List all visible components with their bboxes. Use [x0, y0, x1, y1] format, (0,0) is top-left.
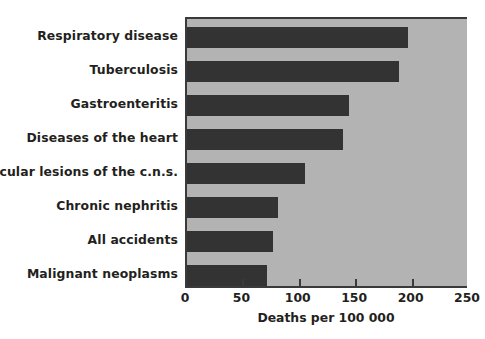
x-axis-tick-mark — [299, 279, 301, 286]
bar-chart: Respiratory diseaseTuberculosisGastroent… — [0, 0, 485, 339]
bar — [187, 231, 273, 252]
bar — [187, 197, 278, 218]
x-axis-tick-label: 200 — [398, 290, 424, 305]
category-axis-labels: Respiratory diseaseTuberculosisGastroent… — [0, 17, 181, 288]
category-label: Gastroenteritis — [71, 93, 178, 114]
bar — [187, 27, 408, 48]
bar — [187, 61, 399, 82]
x-axis-tick-mark — [355, 279, 357, 286]
category-label: Diseases of the heart — [26, 127, 178, 148]
bar — [187, 163, 305, 184]
x-axis-tick-label: 250 — [454, 290, 480, 305]
x-axis-title: Deaths per 100 000 — [185, 310, 467, 325]
category-label: Vascular lesions of the c.n.s. — [0, 161, 178, 182]
category-label: All accidents — [88, 229, 178, 250]
category-label: Malignant neoplasms — [27, 263, 178, 284]
x-axis-tick-mark — [242, 279, 244, 286]
bar — [187, 129, 343, 150]
x-axis-tick-label: 50 — [233, 290, 250, 305]
x-axis-tick-label: 0 — [181, 290, 190, 305]
bar — [187, 265, 267, 286]
x-axis-tick-label: 100 — [285, 290, 311, 305]
x-axis-tick-label: 150 — [341, 290, 367, 305]
category-label: Tuberculosis — [90, 59, 178, 80]
bars-layer — [187, 19, 467, 286]
bar — [187, 95, 349, 116]
category-label: Chronic nephritis — [56, 195, 178, 216]
category-label: Respiratory disease — [37, 25, 178, 46]
x-axis-tick-mark — [412, 279, 414, 286]
x-axis-tick-labels: 050100150200250 — [0, 290, 485, 308]
plot-area — [185, 17, 467, 288]
